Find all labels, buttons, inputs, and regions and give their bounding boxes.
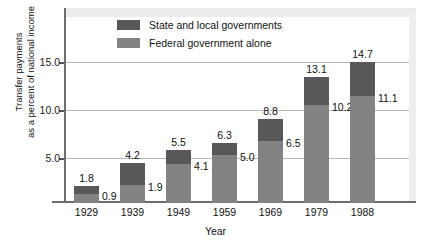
x-tick-label: 1969 — [251, 207, 291, 218]
transfer-payments-bar-chart: 15.0 10.0 5.0 Transfer payments as a per… — [0, 0, 431, 244]
bar-stack — [120, 163, 145, 203]
bar-federal-label: 11.1 — [378, 93, 398, 104]
x-tick-label: 1949 — [159, 207, 199, 218]
bar-segment-state-local — [350, 62, 375, 97]
x-tick-label: 1988 — [343, 207, 383, 218]
bar-total-label: 8.8 — [263, 106, 278, 117]
bar-group — [350, 62, 375, 203]
bar-federal-label: 4.1 — [194, 161, 209, 172]
bar-stack — [74, 186, 99, 203]
bar-federal-label: 5.0 — [240, 152, 255, 163]
bar-segment-federal — [258, 141, 283, 203]
bar-group — [120, 163, 145, 203]
bar-group — [74, 186, 99, 203]
x-axis-title: Year — [0, 226, 431, 237]
bar-federal-label: 1.9 — [148, 182, 163, 193]
bar-stack — [350, 62, 375, 203]
bar-federal-label: 0.9 — [102, 191, 117, 202]
bar-total-label: 13.1 — [306, 64, 326, 75]
bar-segment-state-local — [258, 119, 283, 141]
bar-segment-state-local — [166, 150, 191, 163]
bar-segment-federal — [120, 185, 145, 203]
bar-group — [212, 143, 237, 203]
bar-total-label: 4.2 — [125, 150, 140, 161]
bar-total-label: 6.3 — [217, 130, 232, 141]
bar-group — [304, 77, 329, 203]
x-tick-label: 1929 — [67, 207, 107, 218]
bar-total-label: 5.5 — [171, 137, 186, 148]
x-tick-label: 1939 — [113, 207, 153, 218]
bar-federal-label: 6.5 — [286, 138, 301, 149]
bar-segment-federal — [350, 96, 375, 203]
bar-segment-state-local — [74, 186, 99, 195]
bar-group — [166, 150, 191, 203]
bar-segment-federal — [304, 105, 329, 203]
bar-stack — [166, 150, 191, 203]
bar-segment-state-local — [212, 143, 237, 155]
bar-segment-federal — [212, 155, 237, 203]
x-tick-label: 1959 — [205, 207, 245, 218]
bar-segment-federal — [74, 194, 99, 203]
bar-stack — [304, 77, 329, 203]
bar-total-label: 14.7 — [352, 49, 372, 60]
bar-stack — [212, 143, 237, 203]
bar-segment-state-local — [120, 163, 145, 185]
bar-stack — [258, 119, 283, 203]
x-tick-label: 1979 — [297, 207, 337, 218]
bar-segment-state-local — [304, 77, 329, 105]
bar-total-label: 1.8 — [79, 173, 94, 184]
bar-group — [258, 119, 283, 203]
bar-segment-federal — [166, 164, 191, 203]
